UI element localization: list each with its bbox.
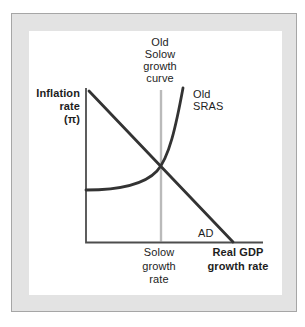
ad-curve-label: AD xyxy=(198,227,213,240)
old-solow-growth-curve-label: Old Solow growth curve xyxy=(130,36,190,84)
real-gdp-axis-label: Real GDP growth rate xyxy=(198,246,278,273)
inflation-axis-label: Inflation rate (π) xyxy=(28,87,80,125)
solow-growth-rate-label: Solow growth rate xyxy=(128,246,190,287)
figure: Inflation rate (π) Old Solow growth curv… xyxy=(0,0,305,327)
axes xyxy=(86,88,263,243)
old-sras-label: Old SRAS xyxy=(193,88,223,112)
